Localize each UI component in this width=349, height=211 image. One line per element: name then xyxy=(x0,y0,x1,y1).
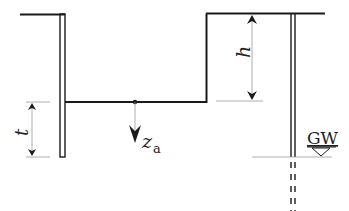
z-subscript: a xyxy=(153,141,161,156)
z-label: z xyxy=(141,130,153,152)
excavation-diagram: h t z a GW xyxy=(0,0,349,211)
t-label: t xyxy=(11,128,32,136)
za-axis: z a xyxy=(129,100,161,156)
water-level-triangle-icon xyxy=(312,148,330,156)
gw-label: GW xyxy=(307,128,339,148)
h-dimension: h xyxy=(216,15,263,101)
left-sheet-pile xyxy=(60,14,65,157)
right-sheet-pile xyxy=(291,14,295,211)
h-label: h xyxy=(232,46,254,58)
t-dimension: t xyxy=(11,102,50,157)
